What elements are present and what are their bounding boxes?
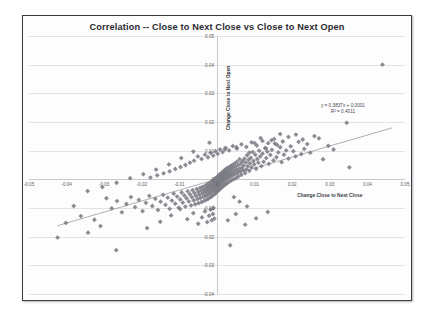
plot-area: -0.05-0.04-0.03-0.02-0.0100.010.020.030.… xyxy=(29,36,405,294)
scatter-point xyxy=(269,147,274,152)
scatter-point xyxy=(158,219,163,224)
scatter-point xyxy=(227,148,232,153)
scatter-point xyxy=(200,215,205,220)
y-tick-label: 0 xyxy=(211,177,214,182)
scatter-point xyxy=(296,139,301,144)
scatter-point xyxy=(299,152,304,157)
scatter-point xyxy=(254,166,259,171)
trendline-rsquared-line: R² = 0.4011 xyxy=(321,109,365,116)
scatter-point xyxy=(256,160,261,165)
scatter-point xyxy=(145,226,150,231)
y-tick-label: -0.01 xyxy=(204,206,214,211)
scatter-point xyxy=(183,163,188,168)
scatter-point xyxy=(286,135,291,140)
y-tick-label: -0.04 xyxy=(204,292,214,297)
scatter-point xyxy=(141,172,146,177)
y-tick-label: -0.02 xyxy=(204,234,214,239)
scatter-point xyxy=(344,120,349,125)
scatter-point xyxy=(291,149,296,154)
scatter-point xyxy=(254,216,259,221)
scatter-point xyxy=(245,204,250,209)
scatter-point xyxy=(284,148,289,153)
scatter-point xyxy=(305,142,310,147)
scatter-point xyxy=(302,147,307,152)
scatter-point xyxy=(257,148,262,153)
x-axis-title: Change Close to Next Close xyxy=(297,193,362,198)
scatter-point xyxy=(282,152,287,157)
scatter-point xyxy=(280,139,285,144)
x-tick-label: -0.03 xyxy=(99,182,109,187)
scatter-point xyxy=(171,191,176,196)
scatter-point xyxy=(158,199,163,204)
scatter-point xyxy=(189,203,194,208)
y-tick-label: 0.02 xyxy=(205,120,214,125)
scatter-point xyxy=(271,158,276,163)
scatter-point xyxy=(86,230,91,235)
scatter-point xyxy=(326,143,331,148)
y-axis-title: Change Close to Next Open xyxy=(226,65,231,129)
scatter-point xyxy=(85,189,90,194)
x-tick-label: -0.01 xyxy=(174,182,184,187)
x-tick-label: 0.03 xyxy=(325,182,334,187)
chart-frame: Correlation -- Close to Next Close vs Cl… xyxy=(22,15,412,301)
scatter-point xyxy=(195,154,200,159)
scatter-point xyxy=(173,201,178,206)
scatter-point xyxy=(140,209,145,214)
scatter-point xyxy=(178,165,183,170)
scatter-point xyxy=(169,198,174,203)
screenshot-root: Correlation -- Close to Next Close vs Cl… xyxy=(0,0,434,318)
scatter-point xyxy=(191,149,196,154)
scatter-point xyxy=(175,194,180,199)
scatter-point xyxy=(124,202,129,207)
x-tick-label: -0.02 xyxy=(137,182,147,187)
scatter-point xyxy=(196,221,201,226)
scatter-point xyxy=(266,161,271,166)
scatter-point xyxy=(300,137,305,142)
scatter-point xyxy=(153,196,158,201)
scatter-point xyxy=(169,213,174,218)
scatter-point xyxy=(119,210,124,215)
x-tick-label: 0 xyxy=(216,182,219,187)
scatter-point xyxy=(71,204,76,209)
scatter-point xyxy=(98,224,103,229)
scatter-point xyxy=(78,214,83,219)
scatter-point xyxy=(188,160,193,165)
scatter-point xyxy=(226,218,231,223)
scatter-point xyxy=(114,248,119,253)
y-tick-label: 0.03 xyxy=(205,91,214,96)
scatter-point xyxy=(128,195,133,200)
scatter-point xyxy=(192,158,197,163)
scatter-point xyxy=(308,150,313,155)
scatter-point xyxy=(207,140,212,145)
scatter-point xyxy=(233,212,238,217)
scatter-point xyxy=(228,243,233,248)
trendline-equation-annotation: y = 0.3837x + 0.0001 R² = 0.4011 xyxy=(321,103,365,117)
scatter-point xyxy=(115,199,120,204)
scatter-point xyxy=(156,208,161,213)
scatter-point xyxy=(144,200,149,205)
x-tick-label: -0.04 xyxy=(61,182,71,187)
scatter-point xyxy=(278,132,283,137)
scatter-point xyxy=(154,167,159,172)
scatter-point xyxy=(261,159,266,164)
y-tick-label: -0.03 xyxy=(204,263,214,268)
scatter-point xyxy=(133,205,138,210)
scatter-point xyxy=(316,136,321,141)
scatter-point xyxy=(155,173,160,178)
scatter-point xyxy=(268,153,273,158)
scatter-point xyxy=(293,154,298,159)
scatter-point xyxy=(294,132,299,137)
scatter-point xyxy=(380,62,385,67)
y-tick-label: 0.04 xyxy=(205,62,214,67)
scatter-point xyxy=(286,156,291,161)
scatter-point xyxy=(167,169,172,174)
scatter-point xyxy=(183,204,188,209)
scatter-point xyxy=(92,217,97,222)
scatter-point xyxy=(266,141,271,146)
scatter-point xyxy=(180,200,185,205)
scatter-point xyxy=(128,176,133,181)
scatter-point xyxy=(191,211,196,216)
scatter-point xyxy=(161,171,166,176)
scatter-point xyxy=(279,160,284,165)
scatter-point xyxy=(166,162,171,167)
